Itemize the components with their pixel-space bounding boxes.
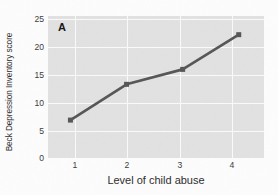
y-tick-label: 15 <box>26 71 44 80</box>
chart-figure: Beck Depression Inventory score 25 20 15… <box>0 0 278 195</box>
y-tick-label: 20 <box>26 43 44 52</box>
x-tick-label: 4 <box>222 160 242 170</box>
y-axis-label: Beck Depression Inventory score <box>2 12 16 172</box>
x-tick-label: 1 <box>65 160 85 170</box>
x-tick-label: 2 <box>117 160 137 170</box>
y-tick-label: 25 <box>26 15 44 24</box>
y-tick-label: 10 <box>26 99 44 108</box>
x-axis-label: Level of child abuse <box>48 174 264 186</box>
x-tick-label: 3 <box>170 160 190 170</box>
plot-area: A <box>48 16 264 158</box>
data-series-line <box>48 16 264 158</box>
x-axis-tick-labels: 1 2 3 4 <box>0 160 278 172</box>
y-tick-label: 5 <box>26 127 44 136</box>
